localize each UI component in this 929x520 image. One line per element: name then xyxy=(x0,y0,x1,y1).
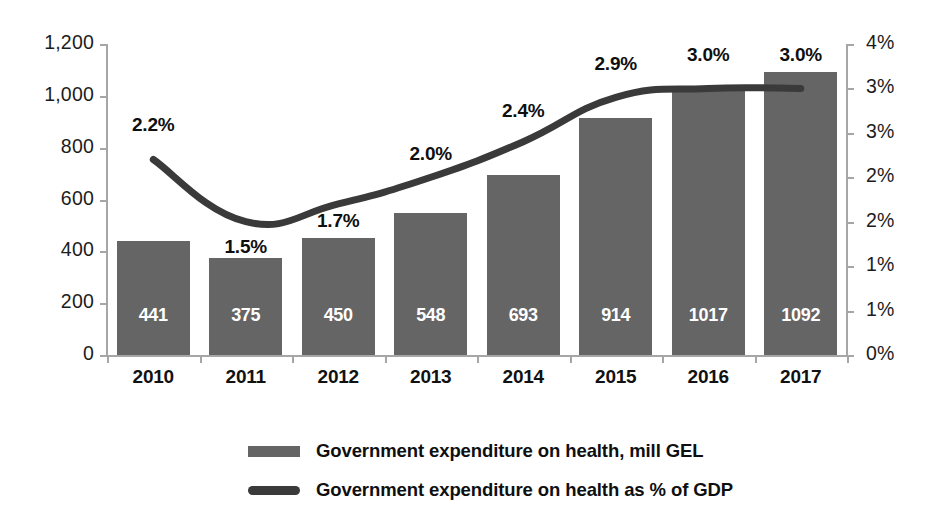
left-axis-tick-mark xyxy=(100,96,107,98)
bar-value-label: 693 xyxy=(487,305,560,326)
category-axis-tick-mark xyxy=(570,355,572,363)
category-axis-tick-mark xyxy=(292,355,294,363)
bar xyxy=(394,213,467,355)
line-value-label: 2.4% xyxy=(478,100,568,122)
left-axis-tick-label: 200 xyxy=(8,290,94,313)
line-value-label: 2.9% xyxy=(571,53,661,75)
category-label: 2015 xyxy=(570,366,663,388)
left-axis-tick-mark xyxy=(100,148,107,150)
legend-label-line: Government expenditure on health as % of… xyxy=(316,479,733,501)
line-value-label: 1.7% xyxy=(293,210,383,232)
category-label: 2013 xyxy=(385,366,478,388)
line-value-label: 3.0% xyxy=(756,44,846,66)
left-axis-tick-label: 0 xyxy=(8,342,94,365)
category-label: 2012 xyxy=(292,366,385,388)
bar xyxy=(117,241,190,355)
right-axis-tick-mark xyxy=(847,266,854,268)
right-axis-tick-mark xyxy=(847,44,854,46)
left-axis-tick-mark xyxy=(100,200,107,202)
bar-value-label: 914 xyxy=(579,305,652,326)
category-label: 2016 xyxy=(662,366,755,388)
category-label: 2017 xyxy=(755,366,848,388)
left-axis-tick-label: 1,200 xyxy=(8,31,94,54)
bar-value-label: 441 xyxy=(117,305,190,326)
category-axis-tick-mark xyxy=(200,355,202,363)
category-axis-tick-mark xyxy=(107,355,109,363)
right-axis-tick-mark xyxy=(847,133,854,135)
category-label: 2014 xyxy=(477,366,570,388)
bar-value-label: 1017 xyxy=(672,305,745,326)
legend-label-bar: Government expenditure on health, mill G… xyxy=(316,440,703,462)
line-value-label: 2.0% xyxy=(386,143,476,165)
line-value-label: 1.5% xyxy=(201,236,291,258)
right-axis-tick-label: 1% xyxy=(866,253,926,276)
right-axis-tick-label: 3% xyxy=(866,75,926,98)
legend-item-line[interactable]: Government expenditure on health as % of… xyxy=(248,479,733,501)
legend-line-swatch-icon xyxy=(248,486,300,495)
left-axis-tick-label: 600 xyxy=(8,187,94,210)
right-axis-tick-label: 2% xyxy=(866,209,926,232)
category-axis-tick-mark xyxy=(385,355,387,363)
bar xyxy=(302,238,375,355)
line-value-label: 3.0% xyxy=(663,44,753,66)
right-axis-tick-label: 3% xyxy=(866,120,926,143)
line-value-label: 2.2% xyxy=(108,114,198,136)
left-axis-tick-mark xyxy=(100,44,107,46)
category-label: 2010 xyxy=(107,366,200,388)
bar-value-label: 1092 xyxy=(764,305,837,326)
bar-value-label: 375 xyxy=(209,305,282,326)
left-axis-tick-mark xyxy=(100,303,107,305)
right-axis-tick-mark xyxy=(847,311,854,313)
right-axis-tick-label: 4% xyxy=(866,31,926,54)
left-axis-tick-mark xyxy=(100,251,107,253)
bar-value-label: 548 xyxy=(394,305,467,326)
chart-container: 02004006008001,0001,200 0%1%1%2%2%3%3%4%… xyxy=(0,0,929,520)
category-axis-tick-mark xyxy=(477,355,479,363)
category-axis-tick-mark xyxy=(755,355,757,363)
left-axis-tick-label: 800 xyxy=(8,135,94,158)
right-axis-tick-mark xyxy=(847,222,854,224)
bar-value-label: 450 xyxy=(302,305,375,326)
left-axis-tick-mark xyxy=(100,355,107,357)
right-axis-tick-mark xyxy=(847,177,854,179)
legend-bar-swatch-icon xyxy=(248,446,300,457)
bar xyxy=(487,175,560,355)
right-axis-tick-label: 0% xyxy=(866,342,926,365)
category-label: 2011 xyxy=(200,366,293,388)
category-axis-tick-mark xyxy=(662,355,664,363)
category-axis-tick-mark xyxy=(847,355,849,363)
right-axis-tick-mark xyxy=(847,88,854,90)
left-axis-tick-label: 400 xyxy=(8,238,94,261)
legend-item-bar[interactable]: Government expenditure on health, mill G… xyxy=(248,440,703,462)
right-axis-tick-label: 2% xyxy=(866,164,926,187)
right-axis-tick-label: 1% xyxy=(866,298,926,321)
left-axis-tick-label: 1,000 xyxy=(8,83,94,106)
